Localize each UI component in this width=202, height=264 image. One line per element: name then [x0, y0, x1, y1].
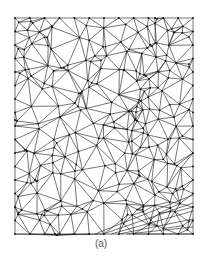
figure-caption: (a) — [0, 238, 202, 249]
mesh-figure: (a) — [0, 0, 202, 264]
triangle-mesh — [0, 0, 202, 264]
